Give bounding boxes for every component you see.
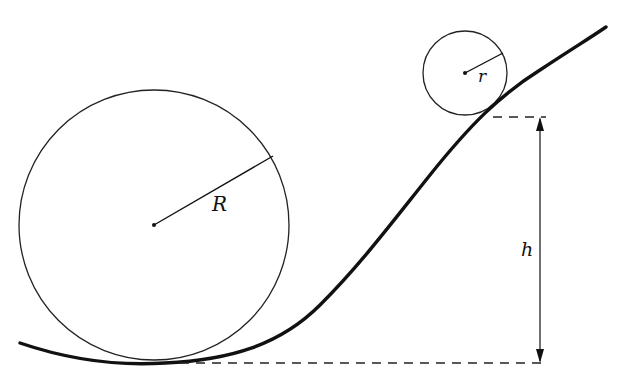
diagram-svg — [0, 0, 624, 386]
arrowhead-down-icon — [536, 349, 544, 363]
diagram-canvas: R r h — [0, 0, 624, 386]
track-curve — [20, 27, 606, 364]
label-big-radius: R — [212, 194, 227, 214]
arrowhead-up-icon — [536, 117, 544, 131]
label-small-radius: r — [478, 68, 486, 85]
label-height: h — [521, 240, 533, 259]
